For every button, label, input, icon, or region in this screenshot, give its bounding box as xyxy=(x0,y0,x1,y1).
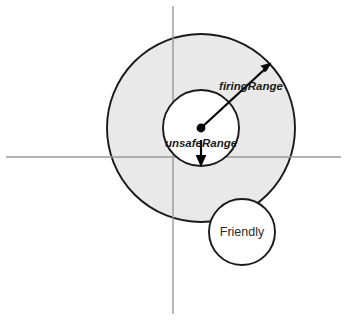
unsafe-range-label: unsafeRange xyxy=(165,137,238,149)
range-zones-diagram: firingRange unsafeRange Friendly xyxy=(0,0,347,320)
center-origin-dot xyxy=(197,124,206,133)
firing-range-label: firingRange xyxy=(219,80,283,92)
friendly-label: Friendly xyxy=(220,225,265,239)
diagram-canvas: firingRange unsafeRange Friendly xyxy=(0,0,347,320)
